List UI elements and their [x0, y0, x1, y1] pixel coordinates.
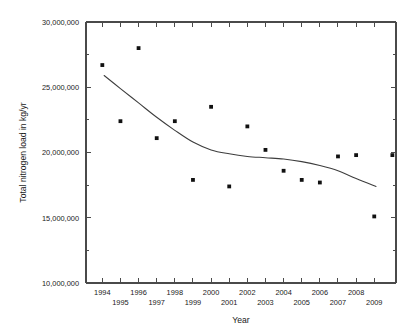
data-point — [282, 169, 286, 173]
y-tick-label-1: 15,000,000 — [42, 214, 79, 223]
data-point — [100, 63, 104, 67]
x-tick-label-12: 2006 — [312, 288, 328, 297]
x-tick-label-6: 2000 — [203, 288, 219, 297]
plot-frame — [86, 22, 396, 283]
chart-canvas: 10,000,00015,000,00020,000,00025,000,000… — [0, 0, 412, 336]
x-tick-label-7: 2001 — [221, 298, 237, 307]
x-tick-label-3: 1997 — [148, 298, 164, 307]
data-point — [264, 148, 268, 152]
x-tick-label-11: 2005 — [294, 298, 310, 307]
data-point — [300, 178, 304, 182]
x-axis-title: Year — [232, 315, 250, 325]
data-point — [137, 46, 141, 50]
x-tick-label-15: 2009 — [366, 298, 382, 307]
x-tick-label-14: 2008 — [348, 288, 364, 297]
y-tick-label-4: 30,000,000 — [42, 18, 79, 27]
x-tick-label-4: 1998 — [167, 288, 183, 297]
x-tick-label-0: 1994 — [94, 288, 110, 297]
data-point — [227, 185, 231, 189]
data-point — [372, 215, 376, 219]
x-axis-ticks — [102, 22, 374, 283]
y-axis-minor-ticks — [86, 55, 396, 251]
data-point — [318, 181, 322, 185]
data-points-group — [100, 46, 394, 218]
trend-line-group — [104, 76, 376, 187]
data-point — [245, 125, 249, 129]
x-tick-label-1: 1995 — [112, 298, 128, 307]
y-axis-major-ticks — [86, 22, 396, 283]
data-point — [390, 153, 394, 157]
data-point — [354, 153, 358, 157]
y-axis-title: Total nitrogen load in kg/yr — [18, 102, 28, 202]
trend-line — [104, 76, 376, 187]
x-tick-label-13: 2007 — [330, 298, 346, 307]
data-point — [119, 119, 123, 123]
y-tick-label-0: 10,000,000 — [42, 279, 79, 288]
data-point — [209, 105, 213, 109]
nitrogen-load-scatter-chart: 10,000,00015,000,00020,000,00025,000,000… — [0, 0, 412, 336]
data-point — [336, 155, 340, 159]
data-point — [191, 178, 195, 182]
y-tick-label-2: 20,000,000 — [42, 148, 79, 157]
x-tick-label-10: 2004 — [275, 288, 291, 297]
y-axis-tick-labels: 10,000,00015,000,00020,000,00025,000,000… — [42, 18, 79, 288]
y-tick-label-3: 25,000,000 — [42, 83, 79, 92]
data-point — [173, 119, 177, 123]
x-tick-label-2: 1996 — [130, 288, 146, 297]
data-point — [155, 136, 159, 140]
x-tick-label-9: 2003 — [257, 298, 273, 307]
x-tick-label-8: 2002 — [239, 288, 255, 297]
axis-frame-line — [86, 22, 396, 283]
x-tick-label-5: 1999 — [185, 298, 201, 307]
x-axis-tick-labels: 1994199519961997199819992000200120022003… — [94, 288, 382, 307]
